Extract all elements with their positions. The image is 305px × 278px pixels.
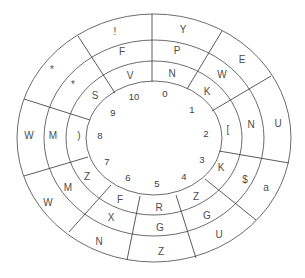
- middle-ring-label: G: [156, 223, 164, 233]
- segment-divider: [176, 195, 196, 258]
- position-number: 2: [203, 129, 208, 139]
- outer-ring-label: Z: [158, 247, 164, 257]
- inner-ring-label: V: [127, 71, 134, 81]
- outer-ring-label: U: [274, 119, 281, 129]
- middle-ring-label: $: [242, 175, 248, 185]
- position-number: 3: [199, 155, 204, 165]
- position-number: 7: [104, 157, 109, 167]
- middle-ring-label: W: [217, 70, 226, 80]
- middle-ring-label: *: [71, 80, 75, 90]
- ring-ring-3: [66, 61, 242, 215]
- inner-ring-label: Z: [193, 192, 199, 202]
- position-number: 6: [125, 173, 130, 183]
- position-number: 5: [154, 179, 159, 189]
- segment-divider: [69, 185, 111, 232]
- outer-ring-label: !: [114, 27, 117, 37]
- inner-ring-label: [: [227, 125, 230, 135]
- outer-ring-label: E: [239, 55, 246, 65]
- middle-ring-label: P: [174, 46, 181, 56]
- outer-ring-label: a: [263, 183, 269, 193]
- concentric-rings: [17, 14, 291, 262]
- outer-ring-label: W: [43, 198, 52, 208]
- middle-ring-label: M: [49, 131, 57, 141]
- inner-ring-label: Z: [84, 172, 90, 182]
- wheel-graphic: [0, 0, 305, 278]
- middle-ring-label: F: [119, 47, 125, 57]
- position-number: 9: [110, 108, 115, 118]
- position-number: 10: [129, 92, 140, 102]
- inner-ring-label: K: [218, 163, 225, 173]
- segment-divider: [212, 76, 271, 111]
- inner-ring-label: ): [77, 131, 80, 141]
- segment-divider: [187, 31, 222, 89]
- inner-ring-label: S: [92, 91, 99, 101]
- segment-divider: [24, 99, 90, 120]
- outer-ring-label: W: [24, 131, 33, 141]
- position-number: 4: [181, 172, 186, 182]
- outer-ring-label: U: [215, 230, 222, 240]
- middle-ring-label: N: [247, 120, 254, 130]
- position-number: 1: [189, 105, 194, 115]
- position-number: 0: [162, 89, 167, 99]
- segment-divider: [205, 179, 256, 220]
- segment-divider: [219, 151, 289, 163]
- middle-ring-label: M: [64, 183, 72, 193]
- outer-ring-label: N: [95, 237, 102, 247]
- middle-ring-label: X: [108, 213, 115, 223]
- inner-ring-label: R: [155, 203, 162, 213]
- middle-ring-label: G: [203, 211, 211, 221]
- segment-divider: [24, 157, 88, 176]
- inner-ring-label: K: [204, 87, 211, 97]
- outer-ring-label: *: [50, 65, 54, 75]
- segment-divider: [78, 36, 115, 93]
- outer-ring-label: Y: [180, 25, 187, 35]
- cipher-wheel-diagram: !YE*UWaWUNZFPW*NM$MGXGVNKS[)KZZFR1001234…: [0, 0, 305, 278]
- inner-ring-label: F: [117, 195, 123, 205]
- ring-outer: [17, 14, 291, 262]
- segment-divider: [127, 196, 140, 260]
- position-number: 8: [97, 131, 102, 141]
- inner-ring-label: N: [168, 69, 175, 79]
